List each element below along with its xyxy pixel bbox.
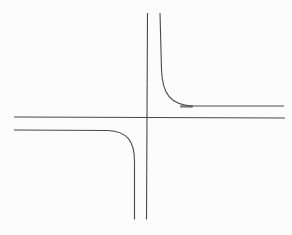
hyperbola-figure (0, 0, 292, 235)
figure-canvas (0, 0, 292, 235)
